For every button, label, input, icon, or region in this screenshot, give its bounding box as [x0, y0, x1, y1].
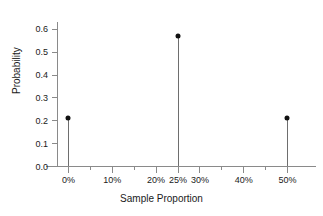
y-tick-label: 0.5 [35, 48, 48, 57]
y-tick-label: 0.6 [35, 25, 48, 34]
x-tick-minor [221, 166, 222, 170]
x-tick: 10% [112, 166, 113, 173]
y-tick-label: 0.2 [35, 116, 48, 125]
y-tick: 0.2 [52, 120, 57, 121]
y-axis-spine [57, 22, 58, 166]
x-tick: 25% [178, 166, 179, 173]
data-stem [178, 36, 179, 166]
plot-area: 0.00.10.20.30.40.50.6 0%10%20%25%30%40%5… [57, 22, 309, 166]
x-axis-spine [46, 166, 316, 167]
y-tick-label: 0.3 [35, 93, 48, 102]
data-stem [287, 118, 288, 166]
y-tick: 0.6 [52, 29, 57, 30]
data-point-marker [65, 116, 70, 121]
y-tick: 0.0 [52, 166, 57, 167]
data-point-marker [285, 116, 290, 121]
x-tick-minor [265, 166, 266, 170]
y-tick: 0.4 [52, 75, 57, 76]
data-stem [68, 118, 69, 166]
x-tick-minor [134, 166, 135, 170]
y-tick-label: 0.0 [35, 162, 48, 171]
chart-figure: 0.00.10.20.30.40.50.6 0%10%20%25%30%40%5… [0, 0, 323, 216]
x-tick: 0% [68, 166, 69, 173]
x-axis-title: Sample Proportion [0, 194, 323, 204]
y-tick-label: 0.4 [35, 71, 48, 80]
x-tick-label: 40% [235, 176, 253, 185]
x-tick-label: 50% [279, 176, 297, 185]
y-tick: 0.5 [52, 52, 57, 53]
y-tick-label: 0.1 [35, 139, 48, 148]
x-tick-label: 25% [169, 176, 187, 185]
x-tick-label: 30% [191, 176, 209, 185]
x-tick-label: 20% [147, 176, 165, 185]
data-point-marker [175, 33, 180, 38]
x-tick-minor [90, 166, 91, 170]
x-tick-label: 0% [62, 176, 75, 185]
y-tick: 0.3 [52, 97, 57, 98]
x-tick: 30% [199, 166, 200, 173]
y-axis-title: Probability [12, 47, 22, 94]
x-tick: 20% [156, 166, 157, 173]
y-tick: 0.1 [52, 143, 57, 144]
x-tick: 50% [287, 166, 288, 173]
x-tick-label: 10% [103, 176, 121, 185]
x-tick: 40% [243, 166, 244, 173]
